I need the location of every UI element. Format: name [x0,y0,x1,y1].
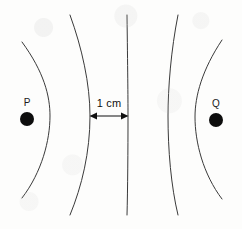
source-dot-p [20,112,34,126]
dimension-label-1cm: 1 cm [97,98,122,109]
source-dot-q [209,113,223,127]
source-label-p: P [24,98,31,108]
dimension-arrowhead-left [90,113,98,120]
dimension-arrowhead-right [121,113,129,120]
source-label-q: Q [212,99,220,109]
wavefront-4-right-inner [168,15,178,215]
dimension-arrow-group [90,113,129,120]
wavefront-canvas [0,0,242,229]
wavefront-2-left-inner [70,15,90,215]
wavefront-3-center [127,15,128,215]
wave-diagram-figure: P Q 1 cm [0,0,242,229]
